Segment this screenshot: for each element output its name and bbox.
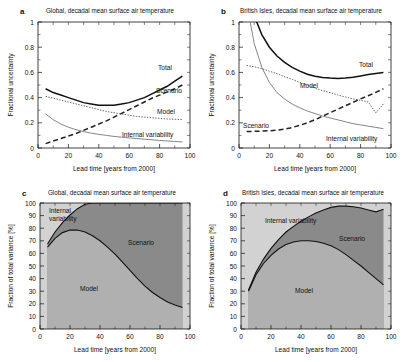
svg-text:0: 0	[239, 333, 243, 340]
svg-text:100: 100	[385, 333, 396, 340]
svg-text:0: 0	[233, 326, 237, 333]
panel-a-title: Global, decadal mean surface air tempera…	[46, 7, 175, 15]
svg-text:60: 60	[327, 333, 335, 340]
svg-text:20: 20	[266, 152, 274, 159]
panel-d-label-model: Model	[295, 287, 313, 294]
panel-b-xlabel: Lead time [years from 2000]	[274, 165, 356, 173]
svg-text:70: 70	[29, 237, 37, 244]
svg-text:80: 80	[357, 152, 365, 159]
svg-text:60: 60	[29, 250, 37, 257]
panel-a-ticks	[38, 22, 190, 148]
svg-text:1: 1	[231, 19, 235, 26]
svg-text:20: 20	[66, 333, 74, 340]
panel-c: c Global, decadal mean surface air tempe…	[0, 181, 201, 362]
svg-text:0: 0	[30, 145, 34, 152]
panel-a-letter: a	[20, 7, 25, 16]
svg-text:10: 10	[230, 313, 238, 320]
panel-b-label-internal-variability: Internal variability	[326, 135, 378, 143]
panel-c-ylabel: Fraction of total variance [%]	[7, 224, 15, 308]
panel-b-curve-model	[247, 65, 384, 113]
panel-a-label-total: Total	[158, 64, 172, 71]
svg-text:70: 70	[230, 237, 238, 244]
panel-c-label-model: Model	[80, 285, 98, 292]
svg-text:100: 100	[385, 152, 396, 159]
svg-text:0: 0	[32, 326, 36, 333]
svg-text:40: 40	[95, 152, 103, 159]
svg-text:80: 80	[156, 152, 164, 159]
svg-text:60: 60	[126, 152, 134, 159]
svg-text:40: 40	[297, 333, 305, 340]
panel-a-label-internal-variability: Internal variability	[122, 131, 174, 139]
svg-text:0: 0	[231, 145, 235, 152]
svg-text:0.6: 0.6	[25, 69, 34, 76]
svg-text:80: 80	[29, 225, 37, 232]
panel-c-xlabel: Lead time [years from 2000]	[74, 346, 156, 354]
svg-text:80: 80	[156, 333, 164, 340]
svg-text:80: 80	[230, 225, 238, 232]
svg-text:40: 40	[230, 275, 238, 282]
svg-text:60: 60	[126, 333, 134, 340]
panel-a-label-scenario: Scenario	[156, 87, 182, 94]
panel-b-letter: b	[221, 7, 226, 16]
svg-text:50: 50	[230, 263, 238, 270]
panel-c-title: Global, decadal mean surface air tempera…	[48, 189, 177, 197]
svg-text:60: 60	[327, 152, 335, 159]
svg-text:100: 100	[184, 333, 195, 340]
svg-text:0: 0	[36, 152, 40, 159]
panel-b-label-total: Total	[359, 61, 373, 68]
svg-text:20: 20	[230, 300, 238, 307]
svg-text:20: 20	[65, 152, 73, 159]
panel-a-label-model: Model	[157, 108, 175, 115]
svg-text:60: 60	[230, 250, 238, 257]
panel-a-svg: a Global, decadal mean surface air tempe…	[0, 0, 201, 181]
svg-text:100: 100	[226, 200, 237, 207]
panel-d: d British Isles, decadal mean surface ai…	[201, 181, 402, 362]
svg-text:40: 40	[29, 275, 37, 282]
panel-a-ylabel: Fractional uncertainty	[7, 53, 15, 117]
panel-a-xlabel: Lead time [years from 2000]	[73, 165, 155, 173]
svg-text:0.4: 0.4	[226, 94, 235, 101]
svg-text:0.2: 0.2	[25, 119, 34, 126]
svg-text:80: 80	[357, 333, 365, 340]
svg-text:20: 20	[267, 333, 275, 340]
panel-b: b British Isles, decadal mean surface ai…	[201, 0, 402, 181]
panel-a: a Global, decadal mean surface air tempe…	[0, 0, 201, 181]
panel-d-letter: d	[223, 189, 228, 198]
svg-text:90: 90	[29, 212, 37, 219]
panel-b-svg: b British Isles, decadal mean surface ai…	[201, 0, 402, 181]
svg-text:0.4: 0.4	[25, 94, 34, 101]
panel-d-svg: d British Isles, decadal mean surface ai…	[201, 181, 402, 362]
svg-text:90: 90	[230, 212, 238, 219]
svg-text:40: 40	[96, 333, 104, 340]
panel-c-letter: c	[22, 189, 27, 198]
svg-text:0: 0	[38, 333, 42, 340]
panel-b-label-scenario: Scenario	[243, 122, 269, 129]
svg-text:100: 100	[184, 152, 195, 159]
svg-text:1: 1	[30, 19, 34, 26]
svg-text:0.6: 0.6	[226, 69, 235, 76]
svg-text:50: 50	[29, 263, 37, 270]
panel-d-title: British Isles, decadal mean surface air …	[242, 189, 385, 197]
panel-d-ylabel: Fraction of total variance [%]	[208, 224, 216, 308]
panel-b-label-model: Model	[300, 82, 318, 89]
svg-text:20: 20	[29, 300, 37, 307]
panel-d-label-internal-variability: Internal variability	[265, 217, 317, 225]
panel-b-title: British Isles, decadal mean surface air …	[240, 7, 383, 15]
svg-text:0.8: 0.8	[25, 44, 34, 51]
panel-a-axes	[38, 22, 190, 148]
svg-text:30: 30	[29, 288, 37, 295]
panel-d-xlabel: Lead time [years from 2000]	[275, 346, 357, 354]
svg-text:10: 10	[29, 313, 37, 320]
panel-c-svg: c Global, decadal mean surface air tempe…	[0, 181, 201, 362]
panel-c-label-scenario: Scenario	[128, 239, 154, 246]
figure-root: a Global, decadal mean surface air tempe…	[0, 0, 403, 362]
panel-b-ylabel: Fractional uncertainty	[208, 53, 216, 117]
panel-c-label-internal-variability-line1: Internal	[49, 207, 72, 214]
svg-text:0: 0	[237, 152, 241, 159]
svg-text:100: 100	[25, 200, 36, 207]
panel-d-label-scenario: Scenario	[339, 235, 365, 242]
svg-text:40: 40	[296, 152, 304, 159]
svg-text:0.8: 0.8	[226, 44, 235, 51]
svg-text:30: 30	[230, 288, 238, 295]
svg-text:0.2: 0.2	[226, 119, 235, 126]
